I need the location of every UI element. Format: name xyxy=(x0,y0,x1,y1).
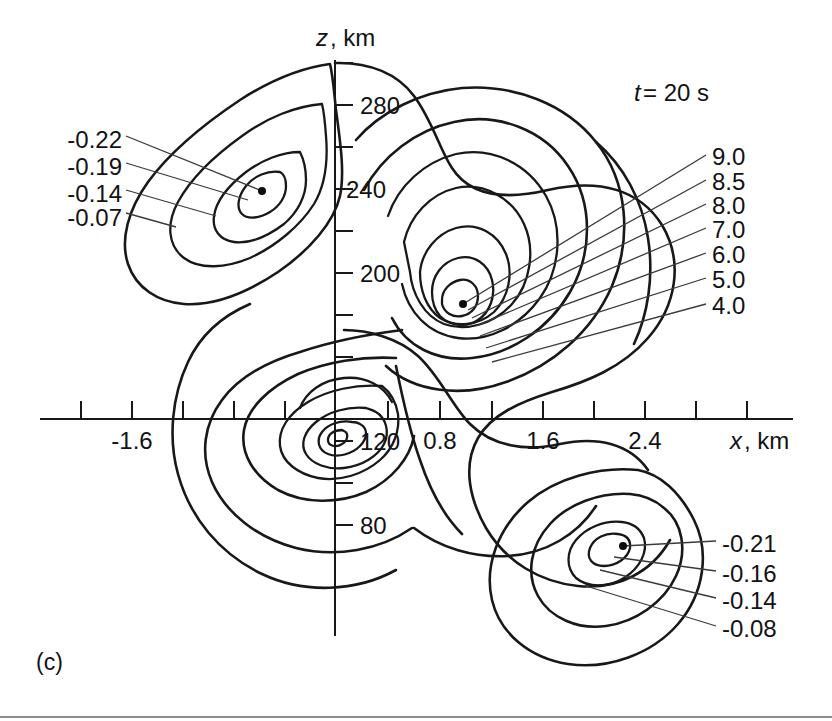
leader-lr-0.16 xyxy=(614,557,716,571)
peak-dot-central xyxy=(459,300,467,308)
x-axis-title-unit: , km xyxy=(744,427,789,454)
contour-label-lr-3: -0.08 xyxy=(722,615,777,642)
time-annotation-italic: t xyxy=(634,79,642,106)
peak-dot-upper-left xyxy=(258,187,266,195)
contour-label-ul-0: -0.22 xyxy=(67,126,122,153)
contour-ll-5 xyxy=(319,421,366,455)
x-tick-label--1.6: -1.6 xyxy=(111,427,152,454)
x-tick-label-2.4: 2.4 xyxy=(628,427,661,454)
time-annotation-value: = 20 s xyxy=(643,79,709,106)
z-axis-title-unit: , km xyxy=(330,24,375,51)
contour-label-ul-2: -0.14 xyxy=(67,180,122,207)
x-tick-label-0.8: 0.8 xyxy=(423,427,456,454)
contour-figure: z , km x , km 280 240 200 120 80 -1.6 0.… xyxy=(0,0,832,721)
contour-label-c-6: 4.0 xyxy=(712,292,745,319)
peak-dot-lower-right xyxy=(619,542,627,550)
leader-c-9.0 xyxy=(463,155,706,304)
contour-label-c-4: 6.0 xyxy=(712,241,745,268)
contour-label-lr-2: -0.14 xyxy=(722,587,777,614)
x-axis-title-italic: x xyxy=(729,427,743,454)
contour-lines xyxy=(125,63,703,665)
leader-ul-0.14 xyxy=(126,190,216,216)
x-axis-ticks xyxy=(81,401,747,419)
contour-c-8.0 xyxy=(420,226,510,324)
z-tick-label-280: 280 xyxy=(360,92,400,119)
z-tick-label-80: 80 xyxy=(360,512,387,539)
z-tick-label-240: 240 xyxy=(346,176,386,203)
leader-ul-0.07 xyxy=(126,213,176,227)
contour-label-c-1: 8.5 xyxy=(712,168,745,195)
contour-label-lr-0: -0.21 xyxy=(722,530,777,557)
contour-label-lr-1: -0.16 xyxy=(722,560,777,587)
x-tick-label-1.6: 1.6 xyxy=(526,427,559,454)
contour-label-ul-3: -0.07 xyxy=(67,204,122,231)
contour-label-c-3: 7.0 xyxy=(712,216,745,243)
contour-label-c-5: 5.0 xyxy=(712,266,745,293)
contour-plot-svg: z , km x , km 280 240 200 120 80 -1.6 0.… xyxy=(0,0,832,721)
contour-level-4.0 xyxy=(335,63,675,587)
panel-label: (c) xyxy=(36,649,63,675)
z-tick-label-120: 120 xyxy=(360,428,400,455)
z-tick-label-200: 200 xyxy=(360,260,400,287)
contour-label-ul-1: -0.19 xyxy=(67,153,122,180)
contour-lr-0.14 xyxy=(531,494,682,627)
bottom-rule xyxy=(0,716,832,718)
contour-c-4.0 xyxy=(356,87,624,390)
leader-ul-0.19 xyxy=(126,163,248,200)
contour-label-c-0: 9.0 xyxy=(712,143,745,170)
contour-ll-cap xyxy=(300,378,392,408)
z-axis-title-italic: z xyxy=(315,24,328,51)
contour-ll-6 xyxy=(328,430,347,446)
contour-label-c-2: 8.0 xyxy=(712,192,745,219)
